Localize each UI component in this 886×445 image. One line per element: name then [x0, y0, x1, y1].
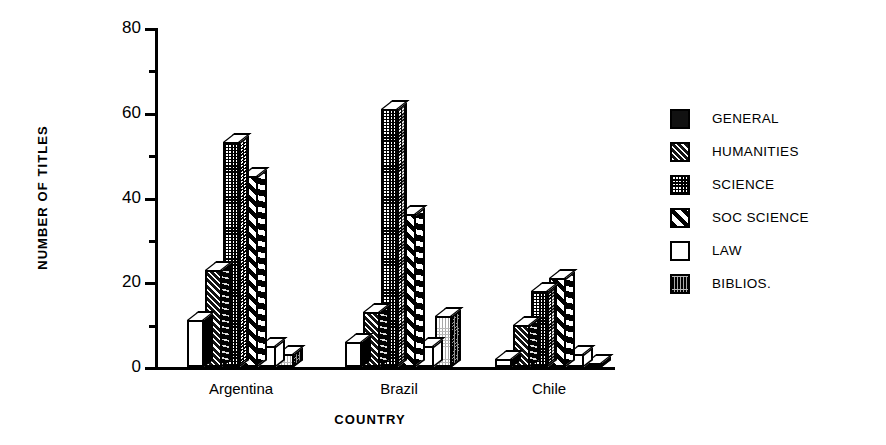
y-tick-mark	[145, 198, 155, 201]
bar-side-face	[380, 305, 389, 367]
category-label-brazil: Brazil	[380, 380, 418, 397]
legend-swatch-icon	[670, 175, 690, 195]
bar-side-face	[530, 318, 539, 367]
y-minor-tick-50	[149, 155, 155, 158]
legend-label: SCIENCE	[712, 177, 774, 192]
x-axis-title: COUNTRY	[150, 412, 590, 427]
bar-brazil-general	[345, 342, 362, 367]
bar-argentina-general	[187, 320, 204, 367]
legend-swatch-icon	[670, 208, 690, 228]
category-label-argentina: Argentina	[209, 380, 273, 397]
bar-chart-figure: NUMBER OF TITLES COUNTRY 020406080 Argen…	[0, 0, 886, 445]
bar-chile-general	[495, 359, 512, 367]
legend-label: GENERAL	[712, 111, 779, 126]
bar-side-face	[398, 101, 407, 367]
y-tick-label: 0	[101, 357, 141, 377]
legend-item-biblios[interactable]: BIBLIOS.	[670, 267, 880, 300]
y-axis-title: NUMBER OF TITLES	[35, 88, 50, 308]
bar-side-face	[548, 284, 557, 367]
y-minor-tick-70	[149, 70, 155, 73]
category-label-chile: Chile	[532, 380, 566, 397]
bar-front-face	[345, 342, 362, 367]
y-axis-line	[155, 28, 158, 370]
legend-item-soc-science[interactable]: SOC SCIENCE	[670, 201, 880, 234]
legend-label: BIBLIOS.	[712, 276, 771, 291]
bar-side-face	[258, 169, 267, 367]
y-tick-mark	[145, 28, 155, 31]
legend-label: SOC SCIENCE	[712, 210, 809, 225]
x-axis-line	[155, 367, 615, 370]
legend-item-law[interactable]: LAW	[670, 234, 880, 267]
bar-side-face	[452, 309, 461, 367]
bar-side-face	[416, 207, 425, 367]
y-tick-label: 20	[101, 272, 141, 292]
y-tick-label: 40	[101, 188, 141, 208]
legend-item-humanities[interactable]: HUMANITIES	[670, 135, 880, 168]
y-minor-tick-30	[149, 240, 155, 243]
y-tick-mark	[145, 282, 155, 285]
bar-side-face	[240, 135, 249, 367]
legend-item-science[interactable]: SCIENCE	[670, 168, 880, 201]
y-tick-label: 80	[101, 18, 141, 38]
y-tick-mark	[145, 367, 155, 370]
legend-swatch-icon	[670, 142, 690, 162]
bar-side-face	[222, 263, 231, 367]
bar-side-face	[204, 313, 213, 367]
legend-swatch-icon	[670, 109, 690, 129]
legend-label: HUMANITIES	[712, 144, 799, 159]
y-tick-label: 60	[101, 103, 141, 123]
chart-legend: GENERALHUMANITIESSCIENCESOC SCIENCELAWBI…	[670, 102, 880, 300]
legend-label: LAW	[712, 243, 742, 258]
legend-swatch-icon	[670, 274, 690, 294]
y-tick-mark	[145, 113, 155, 116]
y-minor-tick-10	[149, 325, 155, 328]
plot-area: 020406080 ArgentinaBrazilChile	[155, 28, 615, 370]
legend-swatch-icon	[670, 241, 690, 261]
bar-front-face	[495, 359, 512, 367]
legend-item-general[interactable]: GENERAL	[670, 102, 880, 135]
bar-side-face	[566, 271, 575, 367]
bar-front-face	[187, 320, 204, 367]
